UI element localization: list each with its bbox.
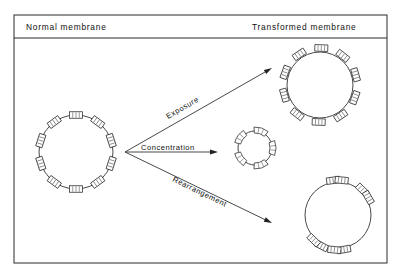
- membrane-particle: [70, 112, 83, 119]
- membrane-particle: [269, 141, 276, 156]
- membrane-particle: [36, 133, 46, 147]
- membrane-particle: [280, 65, 291, 79]
- header-label-right: Transformed membrane: [252, 22, 357, 32]
- exposure-vesicle: [280, 45, 361, 126]
- normal-membrane-vesicle: [36, 112, 117, 193]
- membrane-particle: [349, 90, 360, 104]
- rearrangement-vesicle: [305, 176, 374, 254]
- arrow-layer: ExposureConcentrationRearrangement: [125, 68, 272, 223]
- vesicle-layer: [36, 45, 375, 254]
- membrane-particle: [315, 45, 328, 52]
- arrow-head-exposure: [264, 68, 272, 74]
- arrow-exposure: Exposure: [125, 68, 272, 152]
- membrane-particle: [336, 49, 350, 62]
- membrane-particle: [362, 190, 374, 205]
- arrow-label-rearrangement: Rearrangement: [171, 175, 229, 209]
- membrane-particle: [307, 233, 321, 247]
- arrow-label-exposure: Exposure: [165, 95, 201, 121]
- membrane-particle: [235, 130, 247, 144]
- membrane-particle: [290, 108, 304, 121]
- membrane-particle: [280, 88, 290, 102]
- arrow-label-concentration: Concentration: [141, 143, 195, 152]
- membrane-particle: [36, 156, 46, 170]
- arrow-rearrangement: Rearrangement: [125, 152, 272, 223]
- membrane-particle: [47, 116, 61, 129]
- membrane-particle: [106, 133, 116, 147]
- figure-frame: [14, 15, 387, 263]
- membrane-particle: [235, 152, 247, 166]
- membrane-transformation-diagram: Normal membrane Transformed membrane Exp…: [0, 0, 400, 277]
- membrane-particle: [106, 156, 116, 170]
- arrow-concentration: Concentration: [125, 143, 218, 154]
- membrane-particle: [70, 186, 83, 193]
- membrane-particle: [335, 176, 349, 184]
- header-label-left: Normal membrane: [26, 22, 107, 32]
- arrow-head-concentration: [210, 150, 218, 155]
- membrane-particle: [91, 175, 105, 188]
- membrane-particle: [91, 116, 105, 129]
- arrow-head-rearrangement: [264, 217, 272, 223]
- arrow-shaft-exposure: [125, 72, 265, 152]
- membrane-particle: [312, 119, 325, 126]
- membrane-particle: [328, 246, 342, 254]
- membrane-particle: [47, 175, 61, 188]
- concentration-vesicle: [235, 127, 276, 169]
- membrane-particle: [351, 68, 361, 82]
- vesicle-outline: [287, 52, 353, 118]
